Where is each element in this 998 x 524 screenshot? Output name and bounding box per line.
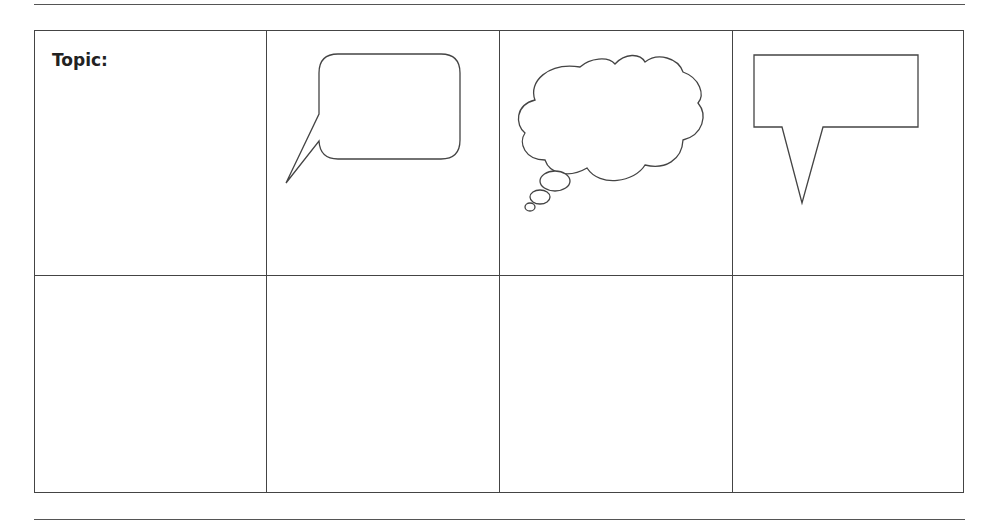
topic-label: Topic: [52, 50, 108, 70]
callout-cell[interactable] [733, 31, 963, 275]
answer-cell-2[interactable] [267, 276, 499, 492]
worksheet-grid: Topic: [34, 30, 964, 493]
top-rule [34, 4, 965, 5]
answer-cell-4[interactable] [733, 276, 963, 492]
topic-cell[interactable]: Topic: [35, 31, 266, 275]
speech-cell[interactable] [267, 31, 499, 275]
thought-cell[interactable] [500, 31, 732, 275]
answer-cell-1[interactable] [35, 276, 266, 492]
bottom-rule [34, 519, 965, 520]
answer-cell-3[interactable] [500, 276, 732, 492]
